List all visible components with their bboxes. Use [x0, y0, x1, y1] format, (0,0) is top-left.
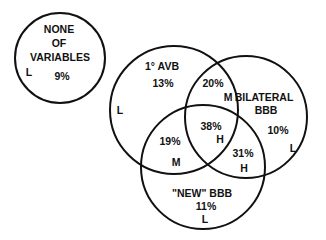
avb-bilateral-pct: 20% [202, 77, 223, 89]
avb-risk: L [117, 104, 123, 116]
avb-name: 1° AVB [145, 60, 179, 72]
circle-bilateral-bbb [185, 56, 307, 178]
all-three-risk: H [216, 133, 224, 145]
new-risk: L [202, 213, 208, 225]
avb-pct: 13% [152, 77, 173, 89]
none-label-line3: VARIABLES [30, 51, 90, 63]
avb-new-pct: 19% [159, 135, 180, 147]
bilateral-risk: L [290, 142, 296, 154]
bilateral-new-pct: 31% [232, 147, 253, 159]
bilateral-name-line2: BBB [255, 104, 278, 116]
all-three-pct: 38% [200, 120, 221, 132]
new-name: "NEW" BBB [172, 187, 232, 199]
avb-bilateral-risk: M [224, 91, 233, 103]
none-risk: L [26, 66, 32, 78]
none-pct: 9% [54, 70, 69, 82]
venn-diagram [0, 0, 326, 240]
bilateral-name-line1: BILATERAL [235, 91, 294, 103]
avb-new-risk: M [172, 156, 181, 168]
new-pct: 11% [196, 200, 216, 212]
none-label-line2: OF [52, 37, 67, 49]
bilateral-pct: 10% [267, 124, 288, 136]
bilateral-new-risk: H [240, 162, 248, 174]
none-label-line1: NONE [44, 23, 74, 35]
